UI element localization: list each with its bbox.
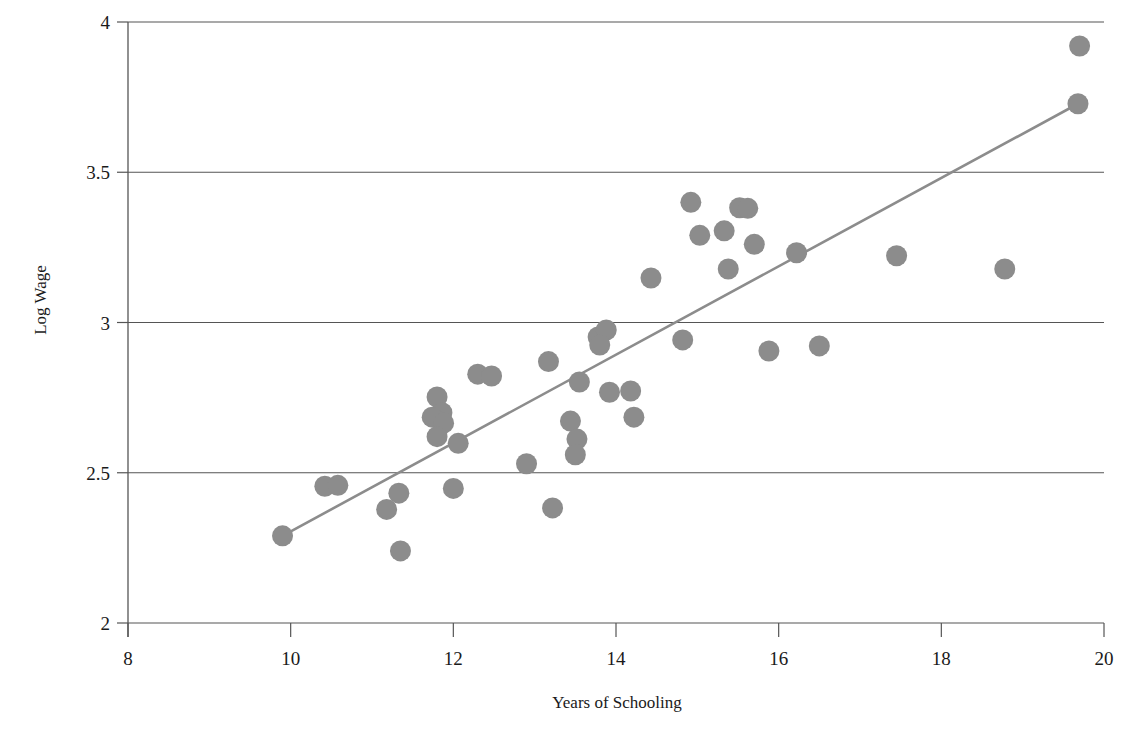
data-point [443,478,464,499]
data-point [427,426,448,447]
data-point [758,341,779,362]
y-tick-label: 3.5 [86,162,110,183]
y-axis-tick-labels: 22.533.54 [86,12,110,634]
data-point [620,381,641,402]
y-tick-label: 4 [101,12,111,33]
x-tick-label: 20 [1095,648,1114,669]
data-point [390,540,411,561]
data-point [1069,36,1090,57]
x-axis-ticks [128,623,1104,637]
data-point [714,220,735,241]
data-point [565,444,586,465]
y-tick-label: 3 [101,313,111,334]
data-point [623,407,644,428]
x-tick-label: 8 [123,648,133,669]
y-tick-label: 2 [101,613,111,634]
data-point [599,382,620,403]
data-point [1067,93,1088,114]
data-point [589,335,610,356]
data-point [737,198,758,219]
plot-canvas: 22.533.54 8101214161820 Years of Schooli… [0,0,1134,748]
x-tick-label: 10 [281,648,300,669]
data-point [272,525,293,546]
y-tick-label: 2.5 [86,463,110,484]
y-axis-title: Log Wage [31,265,50,335]
regression-fit-line [283,104,1078,536]
data-point [680,192,701,213]
data-point [538,351,559,372]
data-point [640,268,661,289]
data-point [569,371,590,392]
data-point [994,259,1015,280]
data-point [886,245,907,266]
data-point [689,225,710,246]
x-tick-label: 16 [769,648,788,669]
data-points-layer [272,36,1090,562]
data-point [327,475,348,496]
data-point [786,242,807,263]
x-tick-label: 12 [444,648,463,669]
data-point [744,234,765,255]
data-point [542,497,563,518]
x-tick-label: 18 [932,648,951,669]
x-axis-tick-labels: 8101214161820 [123,648,1113,669]
data-point [560,411,581,432]
data-point [481,365,502,386]
y-axis-ticks [117,22,128,623]
data-point [672,329,693,350]
data-point [718,259,739,280]
data-point [809,335,830,356]
data-point [516,453,537,474]
data-point [448,433,469,454]
scatter-plot-figure: 22.533.54 8101214161820 Years of Schooli… [0,0,1134,748]
x-tick-label: 14 [607,648,627,669]
x-axis-title: Years of Schooling [552,693,682,712]
data-point [388,483,409,504]
